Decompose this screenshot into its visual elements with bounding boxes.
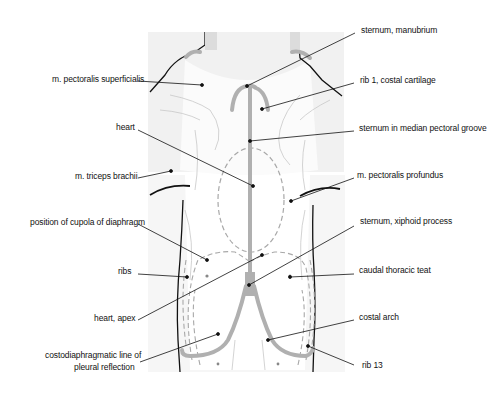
- label-m-pectoralis-profundus: m. pectoralis profundus: [357, 170, 443, 180]
- label-caudal-thoracic-teat: caudal thoracic teat: [359, 265, 431, 275]
- thorax-diagram: [0, 0, 499, 402]
- label-heart-apex: heart, apex: [94, 313, 135, 323]
- label-m-pectoralis-superficialis: m. pectoralis superficialis: [52, 74, 144, 84]
- label-sternum-median-pectoral-groove: sternum in median pectoral groove: [359, 123, 487, 133]
- label-rib13: rib 13: [362, 360, 383, 370]
- label-ribs: ribs: [118, 266, 131, 276]
- label-costal-arch: costal arch: [359, 312, 399, 322]
- label-costodiaphragmatic-line-1: costodiaphragmatic line of: [45, 350, 141, 360]
- label-sternum-manubrium: sternum, manubrium: [361, 25, 437, 35]
- label-m-triceps-brachii: m. triceps brachii: [75, 171, 137, 181]
- label-costodiaphragmatic-line-2: pleural reflection: [74, 362, 135, 372]
- label-cupola-of-diaphragm: position of cupola of diaphragm: [30, 217, 145, 227]
- label-sternum-xiphoid-process: sternum, xiphoid process: [360, 216, 452, 226]
- label-heart: heart: [116, 122, 135, 132]
- label-rib1-costal-cartilage: rib 1, costal cartilage: [360, 75, 436, 85]
